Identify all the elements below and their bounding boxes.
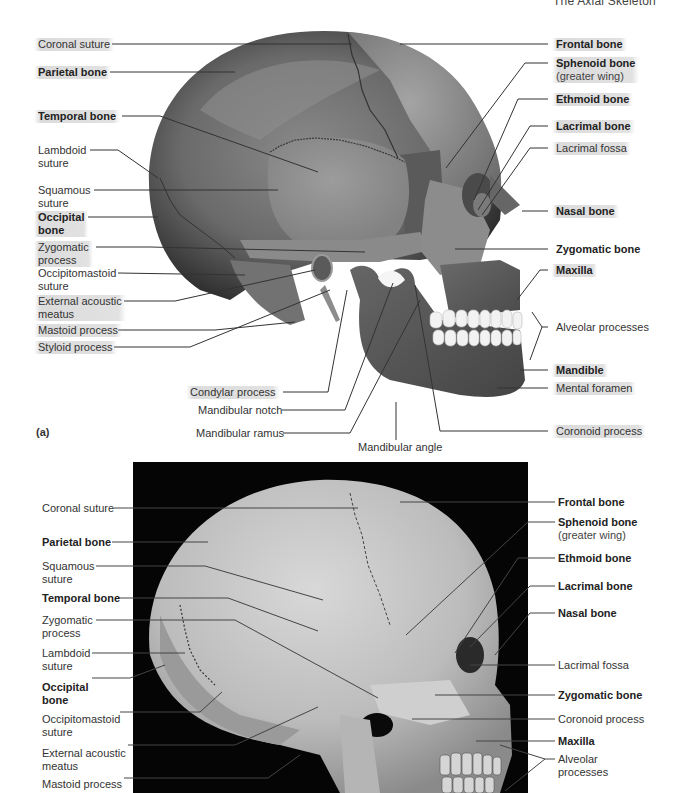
label-mandibular-notch: Mandibular notch [198, 404, 282, 417]
label-mandible: Mandible [552, 364, 608, 377]
label-zygomatic-bone-b: Zygomatic bone [558, 689, 642, 702]
figure-letter-a: (a) [36, 426, 49, 438]
label-temporal-bone: Temporal bone [34, 110, 120, 123]
label-zygomatic-process-b: Zygomaticprocess [42, 614, 93, 640]
label-coronoid-process: Coronoid process [552, 425, 646, 438]
label-frontal-bone: Frontal bone [552, 38, 627, 51]
label-parietal-bone: Parietal bone [34, 66, 111, 79]
figure-b-skull-photograph: Coronal suture Parietal bone Squamoussut… [0, 455, 674, 793]
label-zygomatic-bone: Zygomatic bone [556, 243, 640, 256]
label-external-acoustic-meatus-b: External acousticmeatus [42, 747, 126, 773]
label-maxilla: Maxilla [552, 264, 597, 277]
label-parietal-bone-b: Parietal bone [42, 536, 111, 549]
label-condylar-process: Condylar process [186, 386, 280, 399]
label-lambdoid-suture: Lambdoidsuture [38, 144, 86, 170]
label-maxilla-b: Maxilla [558, 735, 595, 748]
label-squamous-suture-b: Squamoussuture [42, 560, 95, 586]
label-coronal-suture: Coronal suture [34, 38, 114, 51]
label-frontal-bone-b: Frontal bone [558, 496, 625, 509]
label-alveolar-processes: Alveolar processes [556, 321, 649, 334]
label-occipitomastoid-suture-b: Occipitomastoidsuture [42, 713, 120, 739]
label-lacrimal-bone: Lacrimal bone [552, 120, 635, 133]
label-coronal-suture-b: Coronal suture [42, 502, 114, 515]
label-sphenoid-bone-b: Sphenoid bone(greater wing) [558, 516, 637, 542]
label-nasal-bone: Nasal bone [552, 205, 619, 218]
label-mandibular-angle: Mandibular angle [358, 441, 442, 454]
label-ethmoid-bone-b: Ethmoid bone [558, 552, 631, 565]
label-external-acoustic-meatus: External acousticmeatus [34, 295, 126, 321]
label-squamous-suture: Squamoussuture [38, 184, 91, 210]
label-lacrimal-fossa: Lacrimal fossa [552, 142, 631, 155]
label-nasal-bone-b: Nasal bone [558, 607, 617, 620]
label-lacrimal-bone-b: Lacrimal bone [558, 580, 633, 593]
label-coronoid-process-b: Coronoid process [558, 713, 644, 726]
label-sphenoid-bone: Sphenoid bone(greater wing) [552, 57, 639, 83]
label-zygomatic-process: Zygomaticprocess [34, 241, 93, 267]
label-occipital-bone: Occipitalbone [34, 211, 88, 237]
label-temporal-bone-b: Temporal bone [42, 592, 120, 605]
label-occipital-bone-b: Occipitalbone [42, 681, 88, 707]
label-ethmoid-bone: Ethmoid bone [552, 93, 633, 106]
label-mandibular-ramus: Mandibular ramus [196, 427, 284, 440]
label-mastoid-process-b: Mastoid process [42, 778, 122, 791]
label-mental-foramen: Mental foramen [552, 382, 636, 395]
label-styloid-process: Styloid process [34, 341, 117, 354]
figure-a-skull-illustration: Coronal suture Parietal bone Temporal bo… [0, 0, 674, 450]
label-lacrimal-fossa-b: Lacrimal fossa [558, 659, 629, 672]
label-alveolar-processes-b: Alveolarprocesses [558, 753, 608, 779]
label-occipitomastoid-suture: Occipitomastoidsuture [38, 267, 116, 293]
label-lambdoid-suture-b: Lambdoidsuture [42, 647, 90, 673]
label-mastoid-process: Mastoid process [34, 324, 122, 337]
